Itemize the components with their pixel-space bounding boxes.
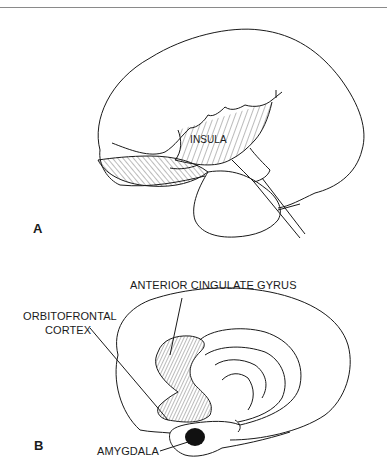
- label-amygdala: AMYGDALA: [97, 446, 159, 457]
- label-anterior-cingulate-gyrus: ANTERIOR CINGULATE GYRUS: [130, 280, 297, 291]
- panel-a-brain-lateral: [98, 29, 364, 238]
- panel-letter-a: A: [33, 222, 42, 235]
- panel-letter-b: B: [34, 439, 43, 452]
- amygdala-marker: [185, 428, 205, 446]
- leader-orbitofrontal: [90, 328, 168, 420]
- label-orbitofrontal-line2: CORTEX: [45, 325, 91, 336]
- leader-amygdala: [160, 442, 188, 451]
- brain-figure: [0, 0, 387, 475]
- panel-b-brain-medial: [90, 288, 350, 456]
- label-insula: INSULA: [190, 135, 227, 145]
- label-orbitofrontal-line1: ORBITOFRONTAL: [23, 311, 117, 322]
